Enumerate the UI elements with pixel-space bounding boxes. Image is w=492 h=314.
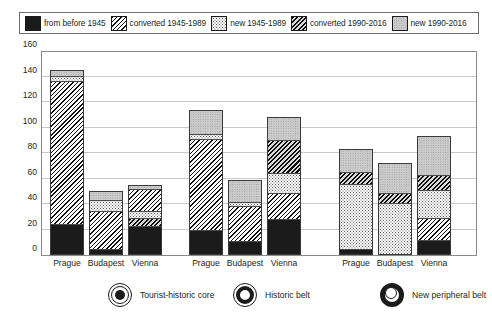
bar-segment-new-1990-2016 [418, 137, 450, 176]
bar-segment-converted-1945-1989 [268, 194, 300, 220]
y-tick-label: 0 [0, 243, 37, 253]
y-tick-label: 40 [0, 192, 37, 202]
bar-segment-new-1990-2016 [229, 181, 261, 203]
bar-budapest-0[interactable] [89, 191, 123, 255]
bar-segment-from-before-1945 [268, 220, 300, 254]
target-filled-circle-icon [108, 283, 132, 307]
bar-segment-new-1990-2016 [190, 111, 222, 135]
bar-segment-converted-1990-2016 [268, 141, 300, 174]
zone-legend-label: Tourist-historic core [140, 290, 215, 300]
bar-segment-converted-1990-2016 [340, 173, 372, 186]
bar-group-historic-belt [189, 51, 301, 255]
zone-legend: Tourist-historic coreHistoric beltNew pe… [19, 280, 477, 310]
bar-segment-converted-1990-2016 [418, 176, 450, 191]
bar-segment-new-1990-2016 [90, 192, 122, 201]
bar-segment-new-1945-1989 [268, 174, 300, 194]
bar-segment-from-before-1945 [129, 227, 161, 254]
legend-label-from-before-1945: from before 1945 [44, 18, 106, 28]
bar-segment-new-1945-1989 [418, 191, 450, 219]
y-tick-label: 120 [0, 90, 37, 100]
bar-segment-converted-1945-1989 [190, 140, 222, 232]
y-tick-label: 140 [0, 65, 37, 75]
thick-outer-ring-circle-icon [380, 283, 404, 307]
y-tick-label: 60 [0, 167, 37, 177]
bars-layer [41, 51, 477, 255]
bar-segment-converted-1990-2016 [129, 219, 161, 226]
thick-ring-circle-icon [233, 283, 257, 307]
bar-segment-from-before-1945 [229, 242, 261, 254]
bar-segment-converted-1945-1989 [51, 82, 83, 225]
legend-swatch-converted-1990-2016 [291, 16, 307, 31]
bar-segment-converted-1945-1989 [129, 190, 161, 212]
series-legend: from before 1945 converted 1945-1989 new… [19, 12, 479, 34]
bar-segment-from-before-1945 [51, 225, 83, 254]
x-tick-label-vienna-0: Vienna [117, 258, 173, 268]
legend-swatch-from-before-1945 [25, 16, 41, 31]
y-tick-label: 20 [0, 218, 37, 228]
bar-segment-converted-1945-1989 [229, 207, 261, 242]
bar-segment-from-before-1945 [340, 250, 372, 254]
bar-segment-new-1945-1989 [379, 204, 411, 254]
bar-prague-0[interactable] [50, 70, 84, 255]
bar-group-new-peripheral-belt [339, 51, 451, 255]
bar-segment-new-1945-1989 [90, 201, 122, 212]
legend-item-from-before-1945: from before 1945 [20, 13, 106, 33]
bar-segment-new-1990-2016 [268, 118, 300, 141]
bar-segment-converted-1945-1989 [90, 212, 122, 250]
legend-swatch-new-1990-2016 [392, 16, 408, 31]
zone-legend-item-tourist-historic-core: Tourist-historic core [108, 283, 215, 307]
bar-segment-new-1945-1989 [129, 212, 161, 219]
zone-legend-label: New peripheral belt [412, 290, 486, 300]
bar-segment-converted-1945-1989 [418, 219, 450, 242]
legend-label-converted-1945-1989: converted 1945-1989 [130, 18, 207, 28]
zone-legend-item-historic-belt: Historic belt [233, 283, 310, 307]
thick-outer-ring-circle-icon-ring-in [387, 290, 397, 300]
y-tick-label: 100 [0, 116, 37, 126]
bar-budapest-2[interactable] [378, 163, 412, 255]
bar-vienna-1[interactable] [267, 117, 301, 255]
zone-legend-label: Historic belt [265, 290, 310, 300]
legend-swatch-converted-1945-1989 [111, 16, 127, 31]
bar-segment-converted-1990-2016 [379, 194, 411, 204]
legend-label-converted-1990-2016: converted 1990-2016 [310, 18, 387, 28]
legend-swatch-new-1945-1989 [211, 16, 227, 31]
legend-item-new-1990-2016: new 1990-2016 [387, 13, 467, 33]
bar-segment-new-1990-2016 [379, 164, 411, 194]
thick-ring-circle-icon-ring-in [240, 290, 250, 300]
bar-vienna-0[interactable] [128, 185, 162, 255]
bar-prague-1[interactable] [189, 110, 223, 255]
legend-item-converted-1945-1989: converted 1945-1989 [106, 13, 207, 33]
y-axis-tick-labels: 020406080100120140160 [0, 51, 37, 255]
legend-label-new-1945-1989: new 1945-1989 [230, 18, 286, 28]
x-tick-label-vienna-2: Vienna [406, 258, 462, 268]
legend-item-converted-1990-2016: converted 1990-2016 [286, 13, 387, 33]
bar-segment-new-1945-1989 [340, 185, 372, 250]
bar-segment-from-before-1945 [190, 231, 222, 254]
bar-vienna-2[interactable] [417, 136, 451, 255]
bar-group-tourist-historic-core [50, 51, 162, 255]
y-tick-label: 80 [0, 141, 37, 151]
bar-segment-from-before-1945 [90, 250, 122, 254]
zone-legend-item-new-peripheral-belt: New peripheral belt [380, 283, 486, 307]
x-tick-label-vienna-1: Vienna [256, 258, 312, 268]
legend-label-new-1990-2016: new 1990-2016 [411, 18, 467, 28]
bar-segment-new-1990-2016 [340, 150, 372, 173]
bar-prague-2[interactable] [339, 149, 373, 255]
bar-budapest-1[interactable] [228, 180, 262, 255]
target-filled-circle-icon-ring-in [115, 290, 125, 300]
y-tick-label: 160 [0, 39, 37, 49]
x-axis-tick-labels: PragueBudapestViennaPragueBudapestVienna… [41, 258, 477, 270]
legend-item-new-1945-1989: new 1945-1989 [206, 13, 286, 33]
bar-segment-from-before-1945 [418, 241, 450, 254]
